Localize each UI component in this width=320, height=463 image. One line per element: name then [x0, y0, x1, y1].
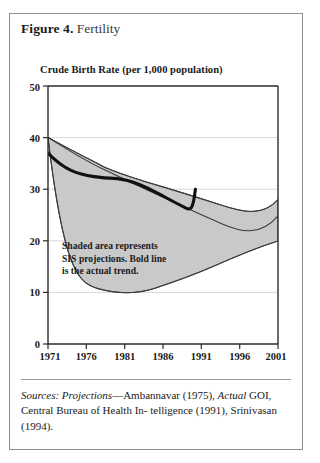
y-ticks: [43, 86, 48, 344]
sources-label: Sources:: [21, 389, 59, 401]
x-tick-label: 1971: [40, 351, 61, 362]
y-tick-label: 20: [30, 236, 41, 247]
annotation-line-3: is the actual trend.: [62, 265, 166, 278]
source-note: Sources: Projections—Ambannavar (1975), …: [21, 388, 289, 434]
x-ticks: [48, 344, 278, 349]
x-tick-labels: 1971 1976 1981 1986 1991 1996 2001: [40, 351, 287, 362]
annotation-line-2: SIS projections. Bold line: [62, 253, 166, 266]
x-tick-label: 1976: [76, 351, 97, 362]
annotation-line-1: Shaded area represents: [62, 240, 166, 253]
x-tick-label: 2001: [266, 351, 287, 362]
source-divider: [21, 379, 291, 380]
x-tick-label: 1981: [114, 351, 135, 362]
sources-actual-label: Actual: [218, 389, 247, 401]
y-tick-label: 40: [30, 133, 41, 144]
sources-projections-label: Projections: [62, 389, 112, 401]
y-tick-label: 50: [30, 82, 41, 93]
chart-annotation: Shaded area represents SIS projections. …: [62, 240, 166, 278]
y-tick-label: 10: [30, 287, 41, 298]
y-tick-label: 0: [35, 339, 40, 350]
x-tick-label: 1986: [153, 351, 174, 362]
x-tick-label: 1991: [191, 351, 212, 362]
x-tick-label: 1996: [229, 351, 250, 362]
sources-projections-text: —Ambannavar (1975),: [112, 389, 215, 401]
y-tick-labels: 0 10 20 30 40 50: [30, 82, 41, 351]
y-tick-label: 30: [30, 184, 41, 195]
